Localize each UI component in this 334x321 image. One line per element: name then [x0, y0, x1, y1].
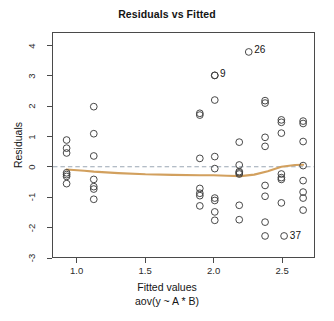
data-point [211, 217, 218, 224]
data-points-group [63, 72, 306, 239]
y-tick-label: -3 [25, 247, 39, 269]
x-tickmark [145, 258, 146, 263]
data-point [300, 207, 307, 214]
data-point [300, 177, 307, 184]
x-tick-label: 1.0 [57, 265, 97, 276]
y-tick-label: 4 [25, 35, 39, 57]
y-tickmark [47, 75, 52, 76]
y-axis-label: Residuals [10, 85, 26, 205]
data-point [90, 103, 97, 110]
y-tickmark [47, 197, 52, 198]
outlier-point [245, 49, 252, 56]
outlier-point [211, 72, 218, 79]
y-tick-label: -2 [25, 217, 39, 239]
x-tickmark [213, 258, 214, 263]
data-point [300, 138, 307, 145]
data-point [196, 203, 203, 210]
outlier-label-37: 37 [290, 230, 301, 241]
data-point [63, 137, 70, 144]
x-tickmark [282, 258, 283, 263]
x-tick-label: 1.5 [125, 265, 165, 276]
data-point [278, 130, 285, 137]
data-point [262, 143, 269, 150]
data-point [211, 153, 218, 160]
data-point [90, 176, 97, 183]
data-point [262, 219, 269, 226]
y-tick-label: 3 [25, 65, 39, 87]
data-point [211, 209, 218, 216]
data-point [196, 155, 203, 162]
data-point [63, 150, 70, 157]
data-point [236, 202, 243, 209]
y-tickmark [47, 45, 52, 46]
y-tick-label: 0 [25, 156, 39, 178]
plot-canvas [53, 33, 314, 257]
data-point [211, 165, 218, 172]
data-point [262, 193, 269, 200]
data-point [211, 97, 218, 104]
x-tick-label: 2.5 [262, 265, 302, 276]
outlier-label-9: 9 [220, 68, 226, 79]
data-point [236, 162, 243, 169]
residuals-vs-fitted-plot: Residuals vs Fitted Residuals -3-2-10123… [0, 0, 334, 321]
x-tick-label: 2.0 [194, 265, 234, 276]
data-point [262, 233, 269, 240]
data-point [63, 180, 70, 187]
page-title: Residuals vs Fitted [0, 8, 334, 20]
y-tickmark [47, 106, 52, 107]
y-tick-label: 1 [25, 126, 39, 148]
x-axis-label: Fitted values [0, 281, 334, 293]
plot-panel [52, 32, 315, 258]
data-point [236, 216, 243, 223]
y-tickmark [47, 136, 52, 137]
y-tickmark [47, 166, 52, 167]
data-point [278, 200, 285, 207]
outlier-label-26: 26 [254, 44, 265, 55]
data-point [90, 130, 97, 137]
data-point [90, 153, 97, 160]
data-point [90, 196, 97, 203]
x-axis-sublabel: aov(y ~ A * B) [0, 295, 334, 307]
y-tickmark [47, 227, 52, 228]
outlier-point [281, 233, 288, 240]
x-tickmark [76, 258, 77, 263]
data-point [236, 139, 243, 146]
data-point [262, 134, 269, 141]
data-point [262, 182, 269, 189]
y-tickmark [47, 258, 52, 259]
y-tick-label: 2 [25, 95, 39, 117]
y-tick-label: -1 [25, 186, 39, 208]
